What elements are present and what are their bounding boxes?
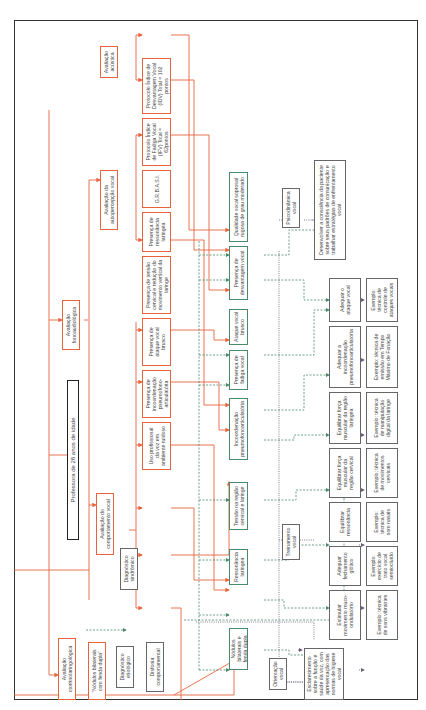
goal-6: Adequar o ataque vocal	[329, 278, 361, 322]
ifv-protocol-box: Protocolo Índice de Fadiga Vocal (IFV) T…	[142, 118, 171, 166]
example-6: Exemplo: técnica de controle de ataques …	[366, 278, 398, 322]
problem-4: Presença de fadiga vocal	[229, 350, 248, 390]
orientacao-detail-box: Esclarecimento sobre a função e saúde da…	[304, 648, 344, 700]
diag-sindromico-box: Diagnóstico sindrômico	[120, 548, 138, 590]
eval-fono-box: Avaliação fonoaudiológica	[62, 300, 80, 350]
example-5: Exemplo: técnica de emissão em Tempo Máx…	[366, 326, 398, 388]
eval-acustica-box: Avaliação acústica	[100, 46, 118, 78]
goal-2: Equilibrar ressonância	[329, 502, 361, 542]
goal-1: Adequar fechamento glótico	[329, 546, 361, 586]
problem-0: Nódulos bilaterais e fenda dupla	[229, 628, 248, 670]
psicodinamica-vocal-box: Psicodinâmica vocal	[282, 188, 300, 228]
comp-finding-1: Presença de incoordenação pneumofono-art…	[142, 370, 171, 418]
problem-6: Presença de desvantagem vocal	[229, 246, 248, 300]
example-1: Exemplo: exercício de trato vocal semioc…	[366, 546, 398, 586]
finding-nodulos-box: "Nódulos bilaterais com fenda dupla"	[88, 642, 106, 700]
problem-2: Tensão na região cervical e laringe	[229, 482, 248, 530]
root-patient-box: Professora de 28 anos de idade	[67, 380, 79, 540]
comp-finding-5: G.R.B.A.S.I.	[142, 170, 171, 208]
idv-protocol-box: Protocolo Índice de Desvantagem Vocal (I…	[142, 58, 171, 114]
flowchart-canvas: Professora de 28 anos de idade Avaliação…	[14, 20, 418, 700]
comp-finding-2: Presença de ataque vocal brusco	[142, 318, 171, 366]
goal-5: Adequar a incoordenação pneumofonoarticu…	[329, 326, 361, 388]
problem-5: Ataque vocal brusco	[229, 309, 248, 345]
eval-autopercepcao-box: Avaliação da autopercepção vocal	[100, 170, 118, 230]
problem-1: Ressonância laríngea	[229, 549, 248, 585]
treinamento-vocal-box: Treinamento vocal	[282, 524, 300, 560]
goal-3: Equilibrar força muscular da região cerv…	[329, 448, 361, 498]
eval-comportamento-box: Avaliação do comportamento vocal	[96, 493, 114, 555]
example-0: Exemplo: técnica de sons vibrantes	[366, 590, 398, 640]
diag-etiologico-box: Diagnóstico etiológico	[116, 646, 134, 688]
comp-finding-0: Uso profissional da voz em ambiente ruid…	[142, 422, 171, 470]
orientacao-vocal-box: Orientação vocal	[269, 658, 287, 690]
psicodinamica-detail-box: Desenvolver a consciência da paciente so…	[314, 160, 346, 260]
problem-7: Qualidade vocal soprosa/ rugosa de grau …	[229, 172, 248, 242]
comp-finding-4: Presença de ressonância laríngea	[142, 212, 171, 252]
disfonia-comportamental-box: Disfonia comportamental	[146, 642, 164, 692]
example-3: Exemplo: técnica de movimentos cervicais	[366, 448, 398, 498]
goal-4: Equilibrar força muscular da região larí…	[329, 392, 361, 444]
goal-0: Estimular movimento muco-ondulatório	[329, 590, 361, 640]
comp-finding-3: Presença de tensão cervical e redução do…	[142, 256, 171, 314]
eval-otorrino-box: Avaliação otorrinolaringológica	[58, 638, 76, 700]
example-2: Exemplo: técnica de som nasais	[366, 502, 398, 542]
problem-3: Incoordenação pneumofonoarticulatória	[229, 398, 248, 460]
example-4: Exemplo: técnica de manipulação digital …	[366, 392, 398, 444]
